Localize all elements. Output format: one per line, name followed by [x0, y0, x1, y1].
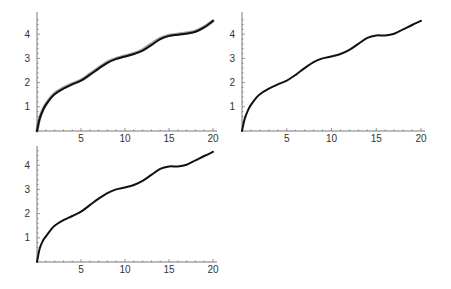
x-tick-label: 15: [371, 133, 383, 144]
x-tick-label: 15: [163, 264, 175, 275]
x-tick-label: 5: [78, 264, 84, 275]
figure: 51015201234 51015201234 51015201234: [0, 0, 451, 289]
x-tick-label: 10: [119, 264, 131, 275]
plot-top-left: 51015201234: [24, 12, 219, 144]
y-tick-label: 4: [229, 29, 235, 40]
y-tick-label: 4: [24, 160, 30, 171]
x-tick-label: 10: [326, 133, 338, 144]
x-tick-label: 20: [207, 133, 219, 144]
y-tick-label: 1: [24, 232, 30, 243]
series-curve-exact: [37, 21, 213, 131]
y-tick-label: 3: [24, 184, 30, 195]
y-tick-label: 3: [24, 53, 30, 64]
y-tick-label: 2: [229, 77, 235, 88]
y-tick-label: 4: [24, 29, 30, 40]
y-tick-label: 2: [24, 77, 30, 88]
y-tick-label: 2: [24, 208, 30, 219]
x-tick-label: 5: [284, 133, 290, 144]
x-tick-label: 15: [163, 133, 175, 144]
y-tick-label: 1: [24, 101, 30, 112]
plot-top-right: 51015201234: [229, 12, 427, 144]
y-tick-label: 1: [229, 101, 235, 112]
plot-bottom-left: 51015201234: [24, 146, 219, 275]
y-tick-label: 3: [229, 53, 235, 64]
series-curve: [242, 21, 421, 131]
x-tick-label: 20: [415, 133, 427, 144]
x-tick-label: 10: [119, 133, 131, 144]
series-curve-approx: [37, 21, 213, 131]
x-tick-label: 20: [207, 264, 219, 275]
x-tick-label: 5: [78, 133, 84, 144]
series-curve: [37, 152, 213, 262]
